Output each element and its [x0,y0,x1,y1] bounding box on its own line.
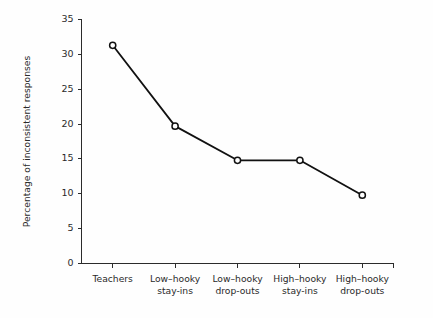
x-axis-tick-label: stay-ins [282,285,318,296]
x-axis-tick-label: Low–hooky [150,273,201,284]
y-axis-tick-label: 25 [61,83,73,94]
y-axis-tick-label: 5 [67,222,73,233]
chart-canvas: 05101520253035Percentage of inconsistent… [0,0,433,318]
x-axis-tick-label: High–hooky [336,273,390,284]
y-axis-tick-label: 10 [61,187,73,198]
data-point-marker [172,123,178,129]
x-axis-tick-label: stay-ins [157,285,193,296]
data-point-marker [297,157,303,163]
y-axis-title: Percentage of inconsistent responses [21,56,32,228]
x-axis-tick-label: Teachers [91,273,133,284]
y-axis-tick-label: 0 [67,257,73,268]
line-chart: 05101520253035Percentage of inconsistent… [0,0,433,318]
x-axis-tick-label: drop-outs [340,285,384,296]
y-axis-tick-label: 35 [61,13,73,24]
data-point-marker [359,192,365,198]
x-axis-tick-label: Low–hooky [212,273,263,284]
y-axis-tick-label: 30 [61,48,73,59]
data-point-marker [234,157,240,163]
y-axis-tick-label: 20 [61,118,73,129]
y-axis-tick-label: 15 [61,152,73,163]
data-point-marker [110,42,116,48]
x-axis-tick-label: drop-outs [215,285,259,296]
x-axis-tick-label: High–hooky [273,273,327,284]
